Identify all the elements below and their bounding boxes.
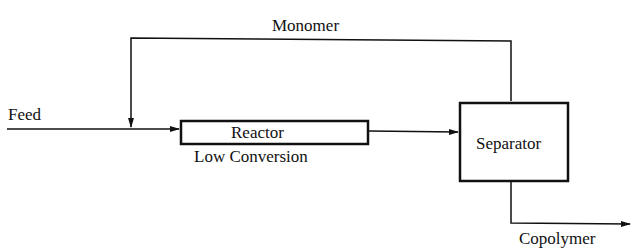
monomer-label: Monomer bbox=[272, 17, 339, 34]
monomer-recycle-line bbox=[131, 38, 511, 127]
diagram-lines bbox=[0, 0, 641, 249]
reactor-to-separator-line bbox=[369, 131, 458, 132]
reactor-note-label: Low Conversion bbox=[194, 148, 308, 165]
process-flow-diagram: Monomer Feed Reactor Low Conversion Sepa… bbox=[0, 0, 641, 249]
copolymer-outlet-line bbox=[511, 182, 630, 224]
reactor-label: Reactor bbox=[231, 124, 284, 141]
feed-label: Feed bbox=[8, 106, 41, 123]
copolymer-label: Copolymer bbox=[519, 230, 596, 247]
separator-label: Separator bbox=[476, 135, 541, 152]
